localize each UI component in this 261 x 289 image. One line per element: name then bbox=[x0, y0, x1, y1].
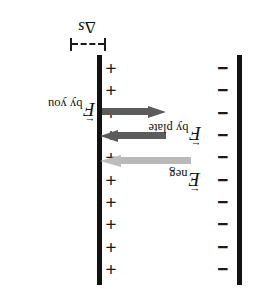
vector-accent-icon: ← bbox=[83, 118, 96, 126]
arrow-head bbox=[100, 130, 118, 142]
positive-charge-column: + + + + + + + + + + bbox=[100, 59, 122, 279]
charge-minus-icon: − bbox=[217, 81, 228, 100]
charge-plus-icon: + bbox=[105, 59, 116, 78]
arrow-head bbox=[148, 106, 166, 118]
vector-accent-icon: ← bbox=[189, 142, 202, 150]
charge-plus-icon: + bbox=[105, 81, 116, 100]
figure-canvas: + + + + + + + + + + − − − − − − − − − − bbox=[0, 0, 261, 289]
force-by-plate-label: ←Fby plate bbox=[148, 123, 201, 143]
gap-tick-left bbox=[104, 38, 106, 51]
charge-minus-icon: − bbox=[217, 193, 228, 212]
negative-charge-column: − − − − − − − − − − bbox=[212, 59, 234, 279]
gap-label: Δs bbox=[67, 17, 107, 37]
arrow-shaft bbox=[120, 157, 191, 164]
vector-subscript: neg bbox=[169, 167, 187, 181]
negative-plate-bar bbox=[237, 55, 242, 285]
charge-minus-icon: − bbox=[217, 104, 228, 123]
vector-accent-icon: ← bbox=[188, 188, 201, 196]
charge-plus-icon: + bbox=[105, 193, 116, 212]
charge-plus-icon: + bbox=[105, 260, 116, 279]
vector-subscript: by you bbox=[48, 97, 82, 111]
charge-minus-icon: − bbox=[217, 215, 228, 234]
charge-minus-icon: − bbox=[217, 260, 228, 279]
vector-subscript: by plate bbox=[148, 121, 188, 135]
charge-plus-icon: + bbox=[105, 215, 116, 234]
charge-plus-icon: + bbox=[105, 171, 116, 190]
charge-minus-icon: − bbox=[217, 148, 228, 167]
arrow-head bbox=[100, 155, 121, 167]
charge-plus-icon: + bbox=[105, 238, 116, 257]
gap-delta-symbol: Δ bbox=[85, 18, 96, 37]
charge-minus-icon: − bbox=[217, 171, 228, 190]
arrow-shaft bbox=[102, 108, 150, 115]
electric-field-neg-arrow bbox=[100, 154, 191, 167]
gap-dashed-line bbox=[72, 43, 104, 45]
force-by-you-label: ←Fby you bbox=[48, 99, 95, 119]
charge-minus-icon: − bbox=[217, 59, 228, 78]
rotated-diagram-group: + + + + + + + + + + − − − − − − − − − − bbox=[0, 0, 261, 289]
charge-minus-icon: − bbox=[217, 126, 228, 145]
electric-field-neg-label: ←Eneg bbox=[169, 169, 200, 189]
gap-variable-symbol: s bbox=[78, 18, 85, 37]
gap-tick-right bbox=[70, 38, 72, 51]
force-by-you-arrow bbox=[102, 105, 166, 118]
charge-minus-icon: − bbox=[217, 238, 228, 257]
